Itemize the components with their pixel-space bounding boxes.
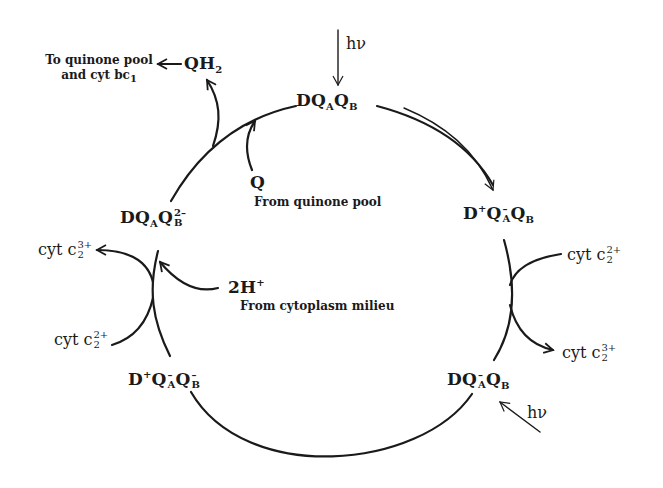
qh2-release-arrow (207, 80, 219, 146)
state-right-lower: DQ–AQB (447, 370, 510, 390)
cyt-right-out-arc (510, 305, 553, 350)
cyt-left-oxidized: cyt c3+2 (38, 240, 92, 260)
q-substrate-label: Q (250, 174, 265, 191)
proton-label: 2H+ (228, 279, 265, 296)
arc-bottom (191, 392, 472, 456)
arc-right-side (494, 240, 512, 360)
to-quinone-pool-note: To quinone pool and cyt bc1 (43, 54, 155, 81)
cyt-left-out-arc (97, 250, 153, 282)
state-left-lower: D+Q–AQ–B (128, 370, 200, 390)
cyt-right-reduced: cyt c2+2 (567, 245, 621, 265)
cyt-right-in-arc (510, 254, 561, 285)
cyt-right-oxidized: cyt c3+2 (562, 343, 616, 363)
cyt-left-reduced: cyt c2+2 (54, 330, 108, 350)
state-left-upper: DQAQ2–B (120, 208, 186, 228)
arc-top-to-right (377, 106, 493, 185)
rc-cycle-diagram: hν hν DQAQB D+Q–AQB DQ–AQB D+Q–AQ–B DQAQ… (0, 0, 663, 488)
hv-top-label: hν (346, 36, 366, 52)
arc-left-to-top (171, 106, 296, 201)
from-cytoplasm-note: From cytoplasm milieu (240, 300, 394, 312)
from-quinone-pool-note: From quinone pool (254, 196, 381, 208)
hv-bottom-label: hν (527, 405, 547, 421)
qh2-label: QH2 (184, 55, 222, 72)
proton-uptake-arrow (160, 262, 218, 289)
cyt-left-in-arc (112, 298, 153, 345)
state-top: DQAQB (296, 92, 358, 109)
state-right-upper: D+Q–AQB (463, 204, 534, 224)
q-uptake-arrow (247, 121, 255, 170)
arc-left-side (153, 251, 170, 356)
